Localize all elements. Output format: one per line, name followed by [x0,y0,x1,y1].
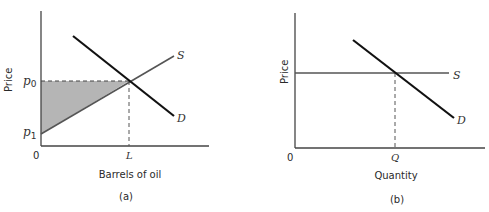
panel-caption: (a) [119,191,133,202]
Q-tick-label: Q [391,152,399,163]
demand-label: D [456,114,466,127]
y-axis-label: Price [3,68,14,92]
p0-label: p0 [23,74,37,89]
y-axis-label: Price [279,60,290,84]
x-axis-label: Quantity [374,170,417,181]
supply-label: S [453,69,461,82]
L-tick-label: L [125,150,133,161]
p1-label: p1 [23,125,36,141]
panel-a: S D p0 p1 0 L Barrels of oil Price (a) [3,11,209,202]
origin-label: 0 [287,152,293,163]
origin-label: 0 [33,150,39,161]
supply-label: S [177,49,185,62]
panel-b: S D 0 Q Quantity Price (b) [279,13,485,205]
panel-caption: (b) [390,194,404,205]
diagram-canvas: S D p0 p1 0 L Barrels of oil Price (a) S… [0,0,489,212]
demand-label: D [176,112,186,125]
demand-curve [353,40,454,118]
x-axis-label: Barrels of oil [99,169,162,180]
